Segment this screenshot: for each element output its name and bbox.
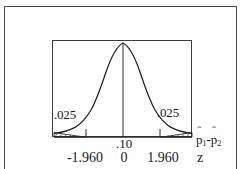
parameter-axis-label: p̂1-p̂2 xyxy=(196,133,221,146)
p-hat-1-symbol: p xyxy=(196,132,203,147)
p-hat-2-subscript: 2 xyxy=(217,139,221,148)
normal-curve-plot xyxy=(53,41,193,138)
p-hat-1-subscript: 1 xyxy=(203,139,207,148)
z-axis-label: z xyxy=(197,150,203,166)
left-tail-area-label: .025 xyxy=(54,107,76,123)
figure-canvas: .025 .025 .10 p̂1-p̂2 -1.960 0 1.960 z xyxy=(0,0,244,169)
p-hat-1: p̂ xyxy=(196,133,203,146)
z-tick-upper-critical: 1.960 xyxy=(139,150,187,166)
right-tail-area-label: .025 xyxy=(157,105,179,121)
z-tick-lower-critical: -1.960 xyxy=(57,150,113,166)
z-tick-center: 0 xyxy=(110,150,138,166)
